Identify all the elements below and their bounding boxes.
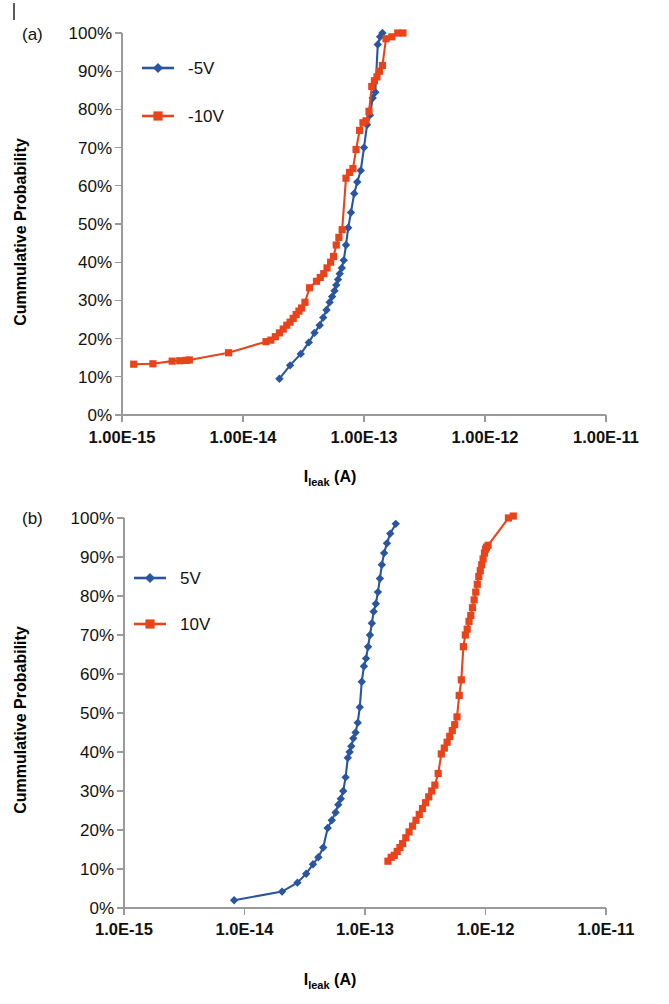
- y-tick-label: 40%: [80, 743, 114, 762]
- x-tick-label: 1.0E-15: [95, 920, 153, 938]
- data-point-marker: [357, 166, 365, 174]
- data-point-marker: [331, 808, 339, 816]
- x-tick-label: 1.0E-13: [336, 920, 394, 938]
- data-point-marker: [464, 626, 471, 633]
- series-line-5V: [279, 33, 382, 379]
- data-point-marker: [322, 306, 330, 314]
- data-point-marker: [341, 773, 349, 781]
- y-tick-label: 20%: [78, 330, 112, 349]
- data-point-marker: [458, 676, 465, 683]
- data-point-marker: [360, 662, 368, 670]
- y-tick-label: 50%: [80, 704, 114, 723]
- data-point-marker: [366, 631, 374, 639]
- y-axis-title-b: Cummulative Probability: [12, 626, 29, 814]
- y-tick-label: 20%: [80, 821, 114, 840]
- chart-panel-b: 0%10%20%30%40%50%60%70%80%90%100%1.0E-15…: [0, 490, 669, 1004]
- tick-label-group-b: 0%10%20%30%40%50%60%70%80%90%100%1.0E-15…: [71, 509, 635, 938]
- data-point-marker: [469, 604, 476, 611]
- data-point-marker: [460, 643, 467, 650]
- data-point-marker: [149, 360, 156, 367]
- legend-a: -5V-10V: [142, 59, 225, 126]
- y-tick-label: 90%: [80, 548, 114, 567]
- legend-marker-diamond: [153, 63, 163, 73]
- data-point-marker: [306, 284, 313, 291]
- chart-panel-a: 0%10%20%30%40%50%60%70%80%90%100%1.00E-1…: [0, 0, 669, 502]
- x-axis-title-b: Ileak (A): [304, 971, 357, 991]
- y-tick-label: 10%: [80, 860, 114, 879]
- legend-label-10V: 10V: [180, 615, 211, 634]
- data-point-marker: [354, 719, 362, 727]
- y-tick-label: 80%: [80, 587, 114, 606]
- data-point-marker: [467, 612, 474, 619]
- series-line-10V: [388, 516, 513, 861]
- y-tick-label: 100%: [69, 24, 112, 43]
- x-tick-label: 1.00E-13: [331, 428, 398, 446]
- data-point-marker: [130, 361, 137, 368]
- data-point-marker: [278, 887, 286, 895]
- data-point-marker: [362, 117, 369, 124]
- y-tick-label: 70%: [78, 139, 112, 158]
- x-axis-title-a: Ileak (A): [304, 468, 357, 488]
- legend-marker-diamond: [145, 573, 155, 583]
- y-tick-label: 70%: [80, 626, 114, 645]
- data-point-marker: [335, 234, 342, 241]
- data-point-marker: [380, 549, 388, 557]
- data-point-marker: [301, 299, 308, 306]
- tick-label-group-a: 0%10%20%30%40%50%60%70%80%90%100%1.00E-1…: [69, 24, 640, 446]
- data-point-marker: [352, 146, 359, 153]
- series-line-5V: [234, 524, 396, 900]
- data-point-marker: [364, 643, 372, 651]
- chart-svg-a: 0%10%20%30%40%50%60%70%80%90%100%1.00E-1…: [0, 0, 669, 502]
- data-point-marker: [378, 561, 386, 569]
- data-point-marker: [360, 143, 368, 151]
- x-tick-label: 1.00E-11: [573, 428, 639, 446]
- data-point-marker: [484, 542, 491, 549]
- data-point-marker: [365, 108, 372, 115]
- data-point-marker: [386, 529, 394, 537]
- data-point-marker: [350, 189, 358, 197]
- y-tick-label: 60%: [78, 177, 112, 196]
- data-point-marker: [474, 581, 481, 588]
- data-point-marker: [471, 596, 478, 603]
- y-tick-label: 80%: [78, 100, 112, 119]
- y-tick-label: 10%: [78, 368, 112, 387]
- legend-marker-square: [145, 619, 154, 628]
- data-point-marker: [374, 588, 382, 596]
- y-tick-label: 90%: [78, 62, 112, 81]
- data-point-marker: [342, 241, 350, 249]
- data-point-marker: [176, 357, 183, 364]
- x-tick-label: 1.00E-12: [452, 428, 519, 446]
- data-point-marker: [333, 241, 340, 248]
- data-point-marker: [372, 600, 380, 608]
- series-group-b: [230, 512, 517, 904]
- data-point-marker: [323, 824, 331, 832]
- data-point-marker: [472, 589, 479, 596]
- series-line-10V: [134, 33, 403, 364]
- y-tick-label: 100%: [71, 509, 114, 528]
- data-point-marker: [362, 654, 370, 662]
- x-tick-label: 1.0E-12: [457, 920, 515, 938]
- x-tick-label: 1.0E-14: [216, 920, 275, 938]
- data-point-marker: [451, 721, 458, 728]
- legend-b: 5V10V: [134, 569, 211, 634]
- data-point-marker: [376, 574, 384, 582]
- data-point-marker: [356, 703, 364, 711]
- data-point-marker: [169, 358, 176, 365]
- data-point-marker: [435, 770, 442, 777]
- data-point-marker: [392, 520, 400, 528]
- data-point-marker: [319, 843, 327, 851]
- data-point-marker: [453, 713, 460, 720]
- legend-label-5V: -5V: [188, 59, 215, 78]
- series-group-a: [130, 29, 406, 383]
- y-tick-label: 30%: [80, 782, 114, 801]
- x-tick-label: 1.0E-11: [578, 920, 635, 938]
- y-tick-label: 50%: [78, 215, 112, 234]
- data-point-marker: [456, 692, 463, 699]
- data-point-marker: [347, 208, 355, 216]
- data-point-marker: [349, 165, 356, 172]
- y-tick-label: 30%: [78, 291, 112, 310]
- data-point-marker: [319, 313, 327, 321]
- data-point-marker: [230, 896, 238, 904]
- y-axis-title-a: Cummulative Probability: [12, 138, 29, 326]
- legend-marker-square: [153, 111, 162, 120]
